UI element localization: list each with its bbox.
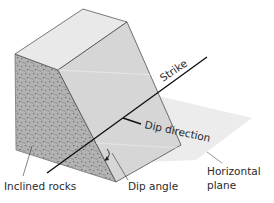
horizontal-plane-label-line1: Horizontal	[207, 165, 261, 177]
strike-dip-diagram: Strike Dip direction Horizontal plane In…	[0, 0, 274, 203]
horizontal-plane-label-line2: plane	[207, 179, 236, 191]
horizontal-plane-leader	[207, 152, 222, 163]
inclined-rocks-label: Inclined rocks	[4, 180, 76, 192]
dip-angle-label: Dip angle	[128, 180, 178, 192]
strike-label: Strike	[157, 57, 189, 84]
